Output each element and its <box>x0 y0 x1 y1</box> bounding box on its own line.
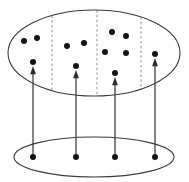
section-arrow-4-head <box>152 58 158 66</box>
section-arrow-2-head <box>73 70 79 78</box>
fiber-bundle-diagram <box>0 0 189 182</box>
section-arrow-2 <box>73 70 79 157</box>
figure-container <box>0 0 189 182</box>
base-space-points-4 <box>152 154 158 160</box>
total-space-points-2 <box>34 35 40 41</box>
total-space-points-7 <box>109 29 115 35</box>
base-space-points-3 <box>112 154 118 160</box>
ellipse-outline-group <box>8 10 180 177</box>
section-arrow-1-head <box>30 66 36 74</box>
projection-arrow-group <box>30 58 158 157</box>
section-arrow-4 <box>152 58 158 157</box>
total-space-points-11 <box>112 70 118 76</box>
total-space-points-3 <box>30 59 36 65</box>
total-space-points-1 <box>21 38 27 44</box>
base-space-ellipse <box>14 137 174 177</box>
total-space-points-4 <box>64 43 70 49</box>
total-space-points-12 <box>152 51 158 57</box>
base-space-points-2 <box>73 154 79 160</box>
total-space-points-8 <box>123 33 129 39</box>
section-arrow-3-head <box>112 77 118 85</box>
base-space-points-1 <box>30 154 36 160</box>
total-space-points-9 <box>102 49 108 55</box>
total-space-points-6 <box>73 63 79 69</box>
total-space-points-5 <box>81 40 87 46</box>
total-space-points-10 <box>123 50 129 56</box>
section-arrow-3 <box>112 77 118 157</box>
